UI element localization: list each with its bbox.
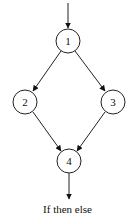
edge-1-3	[75, 51, 105, 91]
edge-3-4	[77, 112, 105, 151]
edge-1-2	[33, 51, 61, 91]
edge-2-4	[33, 112, 61, 151]
node-3-label: 3	[110, 96, 116, 108]
node-2-label: 2	[22, 96, 28, 108]
diagram-caption: If then else	[0, 203, 135, 215]
node-1-label: 1	[65, 35, 71, 47]
control-flow-graph: 1 2 3 4	[0, 0, 135, 224]
node-4-label: 4	[66, 155, 72, 167]
